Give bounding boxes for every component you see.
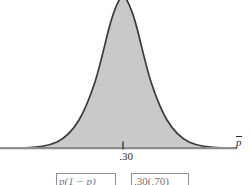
axis-label-p-bar: p [236,136,242,149]
formula-strip: p(1 − p) .30(.70) [0,170,251,185]
formula-left-fragment: p(1 − p) [56,170,116,185]
formula-right-fragment: .30(.70) [131,170,189,185]
x-tick-label-030: .30 [113,150,139,162]
figure-container: .30 p p(1 − p) .30(.70) [0,0,251,185]
formula-right-text: .30(.70) [134,175,169,185]
axis-label-p-bar-text: p [236,136,242,149]
formula-left-text: p(1 − p) [59,175,96,185]
distribution-curve-area [22,0,224,148]
